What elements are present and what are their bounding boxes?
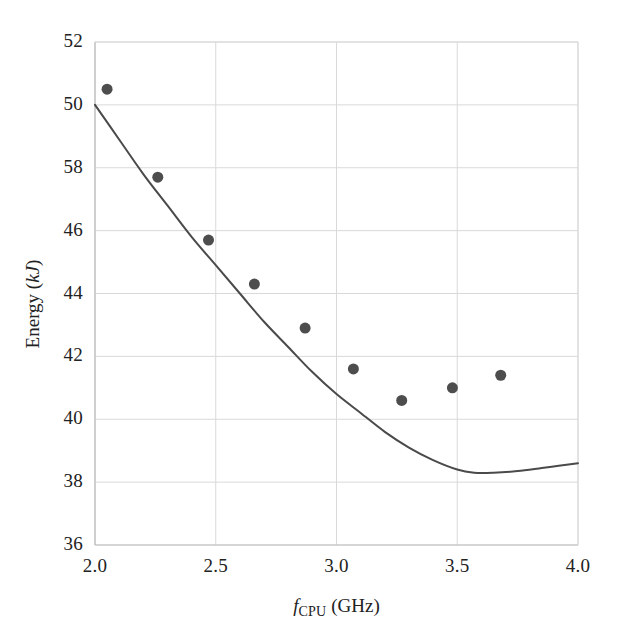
x-axis-tick-label: 2.5 (186, 555, 246, 577)
x-axis-unit: (GHz) (331, 595, 380, 616)
y-axis-tick-label: 52 (39, 30, 83, 52)
scatter-marker-group (102, 84, 507, 406)
x-axis-tick-label: 3.0 (307, 555, 367, 577)
y-axis-tick-label: 38 (39, 470, 83, 492)
scatter-point (203, 235, 214, 246)
x-axis-subscript: CPU (299, 603, 327, 619)
y-axis-tick-label: 36 (39, 533, 83, 555)
scatter-point (447, 382, 458, 393)
y-axis-tick-label: 58 (39, 156, 83, 178)
x-axis-tick-label: 3.5 (427, 555, 487, 577)
y-axis-tick-label: 46 (39, 219, 83, 241)
y-axis-tick-label: 44 (39, 282, 83, 304)
energy-vs-frequency-chart: 525058464442403836 2.02.53.03.54.0 Energ… (0, 0, 619, 642)
scatter-point (396, 395, 407, 406)
x-axis-title: fCPU (GHz) (95, 595, 578, 620)
x-axis-tick-label: 2.0 (65, 555, 125, 577)
y-axis-title-unit-open: ( (22, 283, 43, 294)
scatter-point (152, 172, 163, 183)
scatter-point (348, 363, 359, 374)
y-axis-title-unit-close: ) (22, 260, 43, 266)
y-axis-tick-label: 42 (39, 344, 83, 366)
y-axis-tick-label: 40 (39, 407, 83, 429)
y-axis-title-unit: kJ (22, 266, 43, 283)
scatter-point (249, 279, 260, 290)
y-axis-tick-label: 50 (39, 93, 83, 115)
y-axis-title: Energy (kJ) (22, 224, 44, 384)
y-axis-title-name: Energy (22, 294, 43, 349)
scatter-point (300, 323, 311, 334)
plot-canvas (0, 0, 619, 642)
scatter-point (495, 370, 506, 381)
x-axis-tick-label: 4.0 (548, 555, 608, 577)
scatter-point (102, 84, 113, 95)
